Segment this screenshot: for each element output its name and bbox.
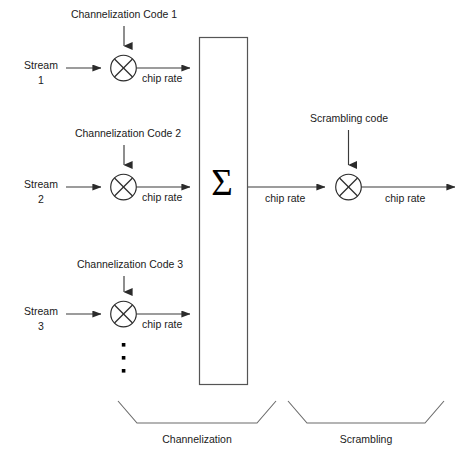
mixer-2: [111, 174, 137, 200]
channelization-code-2-label: Channelization Code 2: [75, 127, 181, 139]
scrambling-bracket-label: Scrambling: [340, 433, 393, 445]
stream-3-label-line2: 3: [38, 320, 44, 332]
chip-rate-label-summer-output: chip rate: [265, 192, 305, 204]
stream-2-label-line1: Stream: [24, 178, 58, 190]
vertical-ellipsis: [122, 343, 126, 373]
scrambling-bracket: [288, 401, 444, 423]
stream-1-label-line1: Stream: [24, 59, 58, 71]
mixer-1: [111, 55, 137, 81]
channelization-code-1-label: Channelization Code 1: [71, 8, 177, 20]
scrambling-code-label: Scrambling code: [310, 112, 388, 124]
channelization-code-3-label: Channelization Code 3: [77, 258, 183, 270]
summation-symbol: Σ: [211, 162, 233, 203]
stream-2-label-line2: 2: [38, 193, 44, 205]
stream-3-label-line1: Stream: [24, 305, 58, 317]
mixer-3: [111, 301, 137, 327]
stream-1-label-line2: 1: [38, 74, 44, 86]
diagram-canvas: Σ Stream 1 Channelization Code 1 chip ra…: [0, 0, 463, 458]
channelization-bracket-label: Channelization: [162, 433, 232, 445]
chip-rate-label-scrambler-output: chip rate: [385, 192, 425, 204]
summer-box: [200, 38, 248, 385]
chip-rate-label-2: chip rate: [142, 191, 182, 203]
mixer-scrambler: [336, 174, 362, 200]
channelization-bracket: [118, 401, 276, 423]
block-diagram: Σ Stream 1 Channelization Code 1 chip ra…: [0, 0, 463, 458]
chip-rate-label-3: chip rate: [142, 318, 182, 330]
chip-rate-label-1: chip rate: [142, 72, 182, 84]
